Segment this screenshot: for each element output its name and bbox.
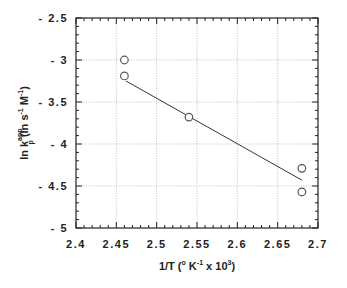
- y-tick-label: - 4.5: [38, 180, 68, 192]
- x-tick-label: 2.45: [103, 238, 130, 250]
- grid-lines: [76, 18, 318, 228]
- regression-line: [126, 81, 302, 180]
- y-tick-label: - 3.5: [38, 96, 68, 108]
- y-tick-label: - 4: [51, 138, 68, 150]
- x-axis-title: 1/T (o K-1 x 103): [159, 259, 236, 272]
- y-tick-labels: - 2.5- 3- 3.5- 4- 4.5- 5: [38, 12, 68, 234]
- data-point-circle: [298, 165, 306, 173]
- y-tick-label: - 3: [51, 54, 68, 66]
- y-axis-title: ln kappp (ln s-1 M-1): [16, 86, 35, 160]
- x-tick-label: 2.7: [308, 238, 328, 250]
- fit-line: [126, 81, 302, 180]
- x-tick-labels: 2.42.452.52.552.62.652.7: [66, 238, 328, 250]
- x-tick-label: 2.6: [227, 238, 247, 250]
- data-point-circle: [121, 56, 129, 64]
- x-tick-label: 2.55: [183, 238, 210, 250]
- x-tick-label: 2.5: [147, 238, 167, 250]
- data-point-circle: [298, 188, 306, 196]
- x-tick-label: 2.65: [264, 238, 291, 250]
- y-tick-label: - 2.5: [38, 12, 68, 24]
- x-tick-label: 2.4: [66, 238, 86, 250]
- data-point-circle: [121, 72, 129, 80]
- data-point-circle: [185, 113, 193, 121]
- y-tick-label: - 5: [51, 222, 68, 234]
- chart: 2.42.452.52.552.62.652.7 - 2.5- 3- 3.5- …: [0, 0, 347, 288]
